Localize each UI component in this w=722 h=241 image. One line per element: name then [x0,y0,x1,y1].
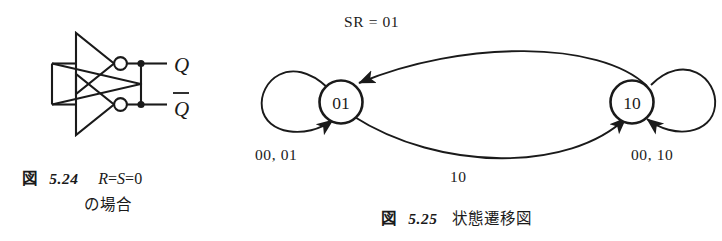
state-node-10[interactable]: 10 [611,81,654,124]
condition-s: S [117,170,125,187]
figure-5-25: 01 10 SR = 01 10 00, 01 00, 10 図 5.25 状態… [240,0,722,241]
q-output-text: Q [174,53,189,77]
figure-5-24-caption-number: 5.24 [49,170,78,187]
transition-arc-10-to-01 [359,51,647,86]
state-transition-drawing: 01 10 [240,0,722,200]
qbar-junction-dot [137,101,144,108]
condition-r: R [98,170,108,187]
figure-5-24-caption: 図 5.24 R=S=0 の場合 [22,166,142,217]
figure-5-25-caption-number: 5.25 [408,210,437,227]
figure-5-24-caption-line2: の場合 [22,192,142,217]
figure-page: Q Q 図 5.24 R=S=0 の場合 [0,0,722,241]
feedback-bottom-to-top [52,64,141,105]
condition-equals-2: = [125,170,134,187]
condition-equals-1: = [108,170,117,187]
feedback-top-to-bottom [52,64,141,105]
top-inverter-bubble [114,57,127,70]
q-junction-dot [137,60,144,67]
figure-5-25-caption-label: 図 [381,210,397,227]
latch-circuit-drawing [0,0,240,165]
figure-5-24-caption-condition: R=S=0 [98,170,142,187]
qbar-output-text: Q [174,97,189,121]
self-loop-label-left: 00, 01 [255,146,297,164]
bottom-inverter-triangle [76,74,114,135]
transition-label-top: SR = 01 [344,13,399,31]
q-output-label: Q [168,46,208,82]
state-01-label: 01 [332,93,350,113]
top-inverter-triangle [76,33,114,94]
state-10-label: 10 [623,93,641,113]
condition-value: 0 [134,170,142,187]
figure-5-25-caption-text: 状態遷移図 [452,210,532,227]
figure-5-25-caption: 図 5.25 状態遷移図 [381,206,532,228]
state-node-01[interactable]: 01 [320,81,363,124]
bottom-inverter-bubble [114,98,127,111]
transition-label-bottom: 10 [450,168,467,186]
self-loop-10 [647,70,715,132]
transition-arc-01-to-10 [353,116,626,158]
figure-5-24: Q Q 図 5.24 R=S=0 の場合 [0,0,240,241]
qbar-output-label: Q [168,84,208,126]
figure-5-24-caption-label: 図 [22,170,38,187]
self-loop-label-right: 00, 10 [631,146,673,164]
